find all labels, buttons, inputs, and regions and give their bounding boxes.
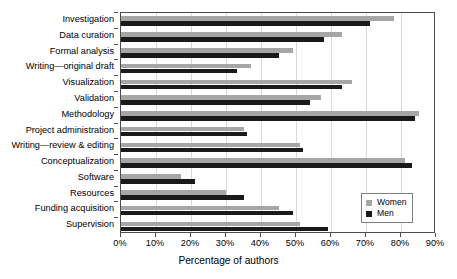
bar-women [121, 127, 244, 132]
x-tick-mark [225, 233, 226, 237]
category-tick [114, 59, 118, 60]
category-label: Methodology [61, 107, 114, 123]
legend-item-women: Women [366, 197, 406, 208]
bar-group [121, 108, 434, 124]
bar-men [121, 100, 310, 105]
bar-group [121, 76, 434, 92]
category-tick [114, 28, 118, 29]
category-label: Project administration [26, 123, 114, 139]
bar-men [121, 179, 195, 184]
bar-men [121, 69, 237, 74]
legend-swatch-men-icon [366, 211, 372, 217]
category-label: Resources [70, 186, 114, 202]
x-tick-label: 20% [170, 238, 210, 248]
x-tick-mark [120, 233, 121, 237]
legend-label-women: Women [377, 197, 406, 208]
bar-men [121, 85, 342, 90]
bar-men [121, 148, 303, 153]
bar-group [121, 45, 434, 61]
category-label: Funding acquisition [35, 201, 114, 217]
category-label: Conceptualization [41, 154, 114, 170]
category-axis: InvestigationData curationFormal analysi… [0, 12, 118, 233]
bar-women [121, 111, 419, 116]
category-label: Formal analysis [50, 44, 114, 60]
x-tick-mark [365, 233, 366, 237]
category-tick [114, 107, 118, 108]
legend-item-men: Men [366, 208, 406, 219]
bar-women [121, 32, 342, 37]
x-tick-mark [330, 233, 331, 237]
bar-women [121, 64, 251, 69]
bar-women [121, 222, 300, 227]
x-tick-mark [400, 233, 401, 237]
x-tick-label: 60% [310, 238, 350, 248]
x-tick-mark [190, 233, 191, 237]
x-tick-mark [155, 233, 156, 237]
bar-group [121, 155, 434, 171]
x-tick-mark [260, 233, 261, 237]
category-tick [114, 44, 118, 45]
category-label: Software [78, 170, 114, 186]
category-tick [114, 217, 118, 218]
category-tick [114, 123, 118, 124]
category-tick [114, 201, 118, 202]
bar-women [121, 143, 300, 148]
bar-men [121, 227, 328, 232]
bar-group [121, 139, 434, 155]
x-tick-label: 50% [275, 238, 315, 248]
category-tick [114, 154, 118, 155]
bar-women [121, 158, 405, 163]
bar-chart: InvestigationData curationFormal analysi… [0, 0, 457, 279]
category-label: Validation [74, 91, 114, 107]
bar-group [121, 60, 434, 76]
category-label: Data curation [59, 28, 114, 44]
bar-men [121, 21, 370, 26]
bar-women [121, 190, 226, 195]
x-tick-mark [435, 233, 436, 237]
bar-women [121, 48, 293, 53]
legend-swatch-women-icon [366, 200, 372, 206]
bar-women [121, 206, 279, 211]
bar-women [121, 80, 352, 85]
bar-group [121, 124, 434, 140]
x-tick-mark [295, 233, 296, 237]
x-tick-label: 90% [415, 238, 455, 248]
category-tick [114, 12, 118, 13]
bar-men [121, 37, 324, 42]
bar-men [121, 195, 244, 200]
x-tick-label: 30% [205, 238, 245, 248]
bar-men [121, 53, 279, 58]
x-tick-label: 40% [240, 238, 280, 248]
category-tick [114, 75, 118, 76]
category-tick [114, 170, 118, 171]
category-label: Investigation [62, 12, 114, 28]
category-label: Visualization [63, 75, 114, 91]
bar-group [121, 29, 434, 45]
x-tick-label: 10% [135, 238, 175, 248]
bar-men [121, 132, 247, 137]
bar-women [121, 174, 181, 179]
bar-women [121, 16, 394, 21]
bar-group [121, 13, 434, 29]
bar-men [121, 116, 415, 121]
legend-label-men: Men [377, 208, 394, 219]
category-tick [114, 186, 118, 187]
category-label: Writing—original draft [26, 59, 114, 75]
x-tick-label: 80% [380, 238, 420, 248]
bar-group [121, 92, 434, 108]
bar-group [121, 171, 434, 187]
bar-men [121, 211, 293, 216]
x-axis-title: Percentage of authors [0, 255, 457, 266]
chart-legend: Women Men [361, 193, 413, 223]
category-label: Supervision [66, 217, 114, 233]
category-tick [114, 91, 118, 92]
bar-women [121, 95, 321, 100]
x-tick-label: 70% [345, 238, 385, 248]
x-tick-label: 0% [100, 238, 140, 248]
category-label: Writing—review & editing [12, 138, 114, 154]
category-tick [114, 138, 118, 139]
bar-men [121, 163, 412, 168]
